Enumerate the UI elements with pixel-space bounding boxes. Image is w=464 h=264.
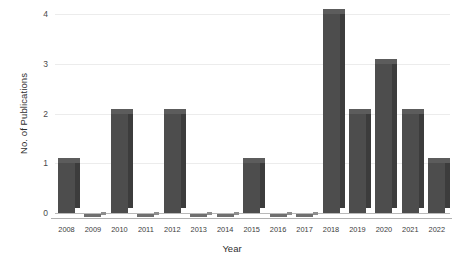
bar-front-face — [375, 64, 392, 213]
bar-top-corner — [181, 109, 186, 114]
bar-side-face — [128, 109, 133, 209]
bar-2010 — [111, 109, 133, 214]
bar-top-corner — [445, 158, 450, 163]
bar-zero-slab-2009 — [84, 214, 101, 217]
bar-front-face — [58, 163, 75, 213]
bar-chart: 4 3 2 1 0 200820092010201120122013201420… — [0, 0, 464, 264]
y-tick-label-1: 1 — [28, 159, 48, 168]
bar-2021 — [402, 109, 424, 214]
bar-zero-slab-2014 — [217, 214, 234, 217]
bar-side-face — [366, 109, 371, 209]
bar-front-face — [349, 114, 366, 214]
bar-front-face — [111, 114, 128, 214]
bar-side-face — [340, 9, 345, 208]
bar-front-face — [428, 163, 445, 213]
y-tick-label-3: 3 — [28, 60, 48, 69]
bar-top-corner — [366, 109, 371, 114]
x-axis-title: Year — [0, 243, 464, 254]
gridline-4 — [55, 14, 450, 15]
bar-front-face — [243, 163, 260, 213]
bar-top-corner — [75, 158, 80, 163]
bar-2015 — [243, 158, 265, 213]
bar-front-face — [164, 114, 181, 214]
y-tick-label-0: 0 — [28, 209, 48, 218]
bar-side-face — [181, 109, 186, 209]
bar-side-face — [445, 158, 450, 208]
bar-top-corner — [260, 158, 265, 163]
bar-top-corner — [340, 9, 345, 14]
bar-side-face — [75, 158, 80, 208]
bar-zero-slab-2013 — [190, 214, 207, 217]
bar-2019 — [349, 109, 371, 214]
plot-area: 4 3 2 1 0 200820092010201120122013201420… — [0, 0, 464, 264]
bar-zero-slab-side-2009 — [101, 212, 106, 215]
bar-2022 — [428, 158, 450, 213]
bar-side-face — [419, 109, 424, 209]
bar-front-face — [323, 14, 340, 213]
bar-2012 — [164, 109, 186, 214]
bar-zero-slab-side-2016 — [287, 212, 292, 215]
bar-zero-slab-side-2017 — [313, 212, 318, 215]
bar-2018 — [323, 9, 345, 213]
bar-side-face — [260, 158, 265, 208]
x-tick-label-2022: 2022 — [422, 226, 452, 233]
bar-2020 — [375, 59, 397, 213]
bar-top-corner — [392, 59, 397, 64]
axis-baseline — [51, 218, 452, 219]
bar-top-corner — [128, 109, 133, 114]
bar-zero-slab-2011 — [137, 214, 154, 217]
bar-top-corner — [419, 109, 424, 114]
bar-side-face — [392, 59, 397, 208]
bar-zero-slab-2016 — [270, 214, 287, 217]
bar-zero-slab-2017 — [296, 214, 313, 217]
y-tick-label-2: 2 — [28, 110, 48, 119]
bar-zero-slab-side-2014 — [234, 212, 239, 215]
axis-floor — [51, 213, 452, 220]
y-axis-title: No. of Publications — [18, 44, 29, 184]
bar-zero-slab-side-2013 — [207, 212, 212, 215]
y-tick-label-4: 4 — [28, 10, 48, 19]
bar-2008 — [58, 158, 80, 213]
bar-front-face — [402, 114, 419, 214]
bar-zero-slab-side-2011 — [154, 212, 159, 215]
